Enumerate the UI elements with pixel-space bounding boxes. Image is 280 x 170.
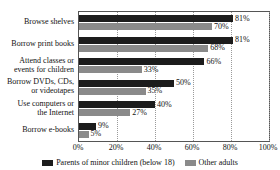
bar-line: 5% <box>79 131 269 138</box>
bar[interactable] <box>79 58 204 65</box>
bar-line: 81% <box>79 15 269 22</box>
legend-label: Other adults <box>199 158 238 167</box>
bar-line: 68% <box>79 45 269 52</box>
bar-line: 50% <box>79 80 269 87</box>
bar-line: 66% <box>79 58 269 65</box>
bar-group: 81%70% <box>79 12 269 34</box>
bar-line: 40% <box>79 101 269 108</box>
legend-swatch <box>185 160 196 166</box>
bar-line: 70% <box>79 23 269 30</box>
bar-value-label: 33% <box>142 66 159 74</box>
bar[interactable] <box>79 88 146 95</box>
bar[interactable] <box>79 45 208 52</box>
bar-line: 35% <box>79 88 269 95</box>
bar-line: 81% <box>79 37 269 44</box>
category-label: Attend classes or events for children <box>14 56 74 74</box>
bar-line: 27% <box>79 109 269 116</box>
x-tick-label: 80% <box>223 143 238 152</box>
bar-group: 9%5% <box>79 120 269 142</box>
bar-value-label: 81% <box>233 15 250 23</box>
plot-area: 81%70%81%68%66%33%50%35%40%27%9%5% <box>78 11 270 142</box>
bar-line: 33% <box>79 66 269 73</box>
bar[interactable] <box>79 66 142 73</box>
gridline <box>269 12 270 141</box>
legend-item[interactable]: Other adults <box>185 158 238 167</box>
bar-value-label: 40% <box>155 101 172 109</box>
bar-rows: 81%70%81%68%66%33%50%35%40%27%9%5% <box>79 12 269 141</box>
category-label: Borrow e-books <box>22 125 74 134</box>
bar-value-label: 81% <box>233 36 250 44</box>
x-tick-label: 40% <box>147 143 162 152</box>
bar-value-label: 50% <box>174 79 191 87</box>
bar-value-label: 70% <box>212 23 229 31</box>
bar-line: 9% <box>79 123 269 130</box>
bar-value-label: 66% <box>204 58 221 66</box>
bar[interactable] <box>79 109 130 116</box>
x-tick-label: 20% <box>109 143 124 152</box>
bar-chart: Browse shelvesBorrow print booksAttend c… <box>0 0 280 170</box>
x-tick-label: 100% <box>259 143 278 152</box>
bar-group: 81%68% <box>79 34 269 56</box>
bar[interactable] <box>79 23 212 30</box>
x-axis-tick-labels: 0%20%40%60%80%100% <box>78 143 270 154</box>
bar-group: 40%27% <box>79 98 269 120</box>
category-label: Use computers or the Internet <box>18 99 74 117</box>
bar-value-label: 5% <box>89 130 102 138</box>
x-tick-label: 0% <box>73 143 84 152</box>
bar-value-label: 27% <box>130 109 147 117</box>
category-label: Borrow print books <box>11 39 74 48</box>
x-tick-label: 60% <box>185 143 200 152</box>
bar[interactable] <box>79 15 233 22</box>
bar-value-label: 35% <box>146 87 163 95</box>
category-axis-labels: Browse shelvesBorrow print booksAttend c… <box>0 11 76 142</box>
chart-legend: Parents of minor children (below 18)Othe… <box>0 157 280 168</box>
bar-group: 50%35% <box>79 77 269 99</box>
bar-value-label: 68% <box>208 44 225 52</box>
bar-group: 66%33% <box>79 55 269 77</box>
legend-item[interactable]: Parents of minor children (below 18) <box>42 158 174 167</box>
category-label: Borrow DVDs, CDs, or videotapes <box>7 77 74 95</box>
category-label: Browse shelves <box>24 17 74 26</box>
legend-label: Parents of minor children (below 18) <box>56 158 174 167</box>
legend-swatch <box>42 160 53 166</box>
bar[interactable] <box>79 131 89 138</box>
